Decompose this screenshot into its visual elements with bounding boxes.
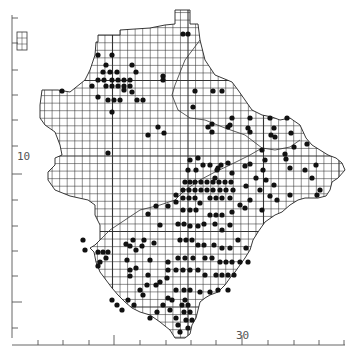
map-axes: [12, 15, 345, 345]
record-dots: [59, 31, 322, 334]
coastline: [40, 10, 345, 338]
x-axis-label: 30: [236, 329, 249, 342]
grid-squares: [0, 0, 359, 355]
island-inset: [17, 32, 27, 50]
y-axis-label: 10: [17, 150, 30, 163]
distribution-map: 10 30: [0, 0, 359, 355]
map-canvas: 10 30: [0, 0, 359, 355]
